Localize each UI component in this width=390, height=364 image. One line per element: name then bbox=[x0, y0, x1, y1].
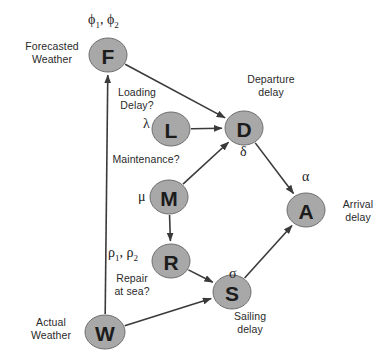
edge-s-to-a bbox=[245, 225, 292, 278]
node-d-letter: D bbox=[236, 118, 251, 141]
node-w[interactable]: W bbox=[85, 315, 125, 349]
maintenance-label: Maintenance? bbox=[108, 153, 184, 166]
node-r-letter: R bbox=[163, 251, 178, 274]
node-a[interactable]: A bbox=[287, 193, 325, 227]
node-d[interactable]: D bbox=[225, 111, 263, 145]
sigma-parameter: σ bbox=[229, 266, 237, 282]
rho-parameter: ρ1, ρ2 bbox=[108, 245, 138, 263]
node-f-letter: F bbox=[102, 45, 115, 68]
delta-parameter: δ bbox=[240, 144, 247, 160]
phi-parameter: ϕ1, ϕ2 bbox=[88, 12, 119, 30]
lambda-parameter: λ bbox=[143, 116, 150, 132]
edge-m-to-d bbox=[183, 142, 229, 184]
node-m[interactable]: M bbox=[150, 180, 188, 214]
loading-delay-label: Loading Delay? bbox=[110, 86, 164, 111]
node-r[interactable]: R bbox=[152, 244, 190, 278]
edge-w-to-s bbox=[125, 299, 212, 326]
edge-m-to-r bbox=[170, 215, 171, 241]
node-a-letter: A bbox=[298, 200, 313, 223]
actual-weather-label: Actual Weather bbox=[18, 316, 84, 341]
edge-r-to-s bbox=[188, 270, 212, 282]
node-f[interactable]: F bbox=[89, 38, 127, 72]
node-s-letter: S bbox=[225, 282, 239, 305]
departure-delay-label: Departure delay bbox=[240, 73, 302, 98]
repair-at-sea-label: Repair at sea? bbox=[108, 272, 156, 297]
forecasted-weather-label: Forecasted Weather bbox=[14, 40, 90, 65]
arrival-delay-label: Arrival delay bbox=[334, 198, 382, 223]
node-m-letter: M bbox=[160, 187, 178, 210]
node-l[interactable]: L bbox=[152, 112, 190, 146]
edge-d-to-a bbox=[255, 143, 293, 194]
sailing-delay-label: Sailing delay bbox=[226, 310, 274, 335]
diagram-canvas: FLDMRASW Forecasted WeatherLoading Delay… bbox=[0, 0, 390, 364]
node-l-letter: L bbox=[165, 119, 178, 142]
alpha-parameter: α bbox=[302, 169, 309, 185]
mu-parameter: μ bbox=[138, 189, 146, 205]
node-w-letter: W bbox=[95, 322, 115, 345]
